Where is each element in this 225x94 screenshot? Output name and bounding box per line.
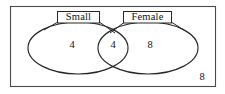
set-label-small: Small [66, 11, 92, 22]
set-label-female: Female [131, 11, 163, 22]
count-small-only: 4 [69, 39, 75, 50]
count-outside-universe: 8 [199, 71, 204, 82]
venn-diagram-canvas: Small Female 4 4 8 8 [0, 0, 225, 94]
count-intersection: 4 [110, 39, 116, 50]
venn-diagram-container: Small Female 4 4 8 8 [0, 0, 225, 94]
count-female-only: 8 [147, 39, 152, 50]
